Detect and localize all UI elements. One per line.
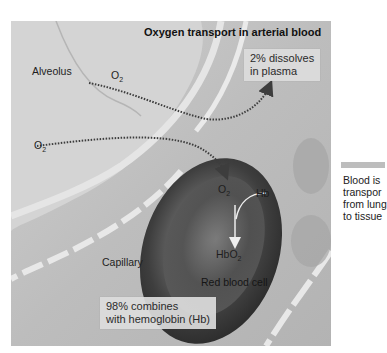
label-o2-top: O2 bbox=[111, 69, 123, 86]
diagram-title: Oxygen transport in arterial blood bbox=[144, 26, 321, 38]
label-red-blood-cell: Red blood cell bbox=[201, 276, 268, 288]
side-divider bbox=[341, 162, 385, 168]
hemoglobin-callout: 98% combines with hemoglobin (Hb) bbox=[100, 297, 216, 329]
diagram-panel: Oxygen transport in arterial blood Alveo… bbox=[11, 21, 331, 346]
label-o2-left: O2 bbox=[34, 139, 46, 156]
plasma-callout: 2% dissolves in plasma bbox=[244, 49, 320, 81]
side-note: Blood is transpor from lung to tissue bbox=[343, 174, 387, 222]
label-capillary: Capillary bbox=[102, 256, 143, 268]
label-o2-cell: O2 bbox=[218, 183, 230, 200]
label-hb: Hb bbox=[256, 187, 269, 199]
label-hbo2: HbO2 bbox=[216, 248, 242, 265]
label-alveolus: Alveolus bbox=[32, 65, 72, 77]
